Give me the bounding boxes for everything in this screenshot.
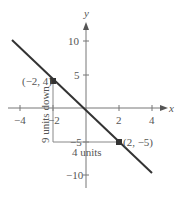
y-axis-arrow-icon	[83, 22, 89, 30]
x-tick-label-2: 2	[116, 114, 122, 126]
y-tick-label-5: 5	[74, 69, 80, 81]
y-tick-label-10: 10	[68, 35, 80, 47]
point-b-label: (2, −5)	[123, 136, 153, 149]
x-axis-label: x	[168, 102, 174, 114]
run-label: 4 units	[72, 146, 102, 158]
x-tick-label-4: 4	[149, 114, 155, 126]
y-axis-label: y	[83, 7, 89, 19]
coordinate-plane: y x −4 −2 2 4 10 5 −5 −10 (−2, 4) (2, −5…	[0, 0, 183, 197]
x-tick-label-m4: −4	[14, 114, 26, 126]
rise-label: 9 units down	[39, 86, 51, 143]
point-b	[116, 139, 122, 145]
x-axis-arrow-icon	[160, 105, 168, 111]
y-tick-label-m10: −10	[66, 169, 84, 181]
point-a-label: (−2, 4)	[22, 75, 52, 88]
